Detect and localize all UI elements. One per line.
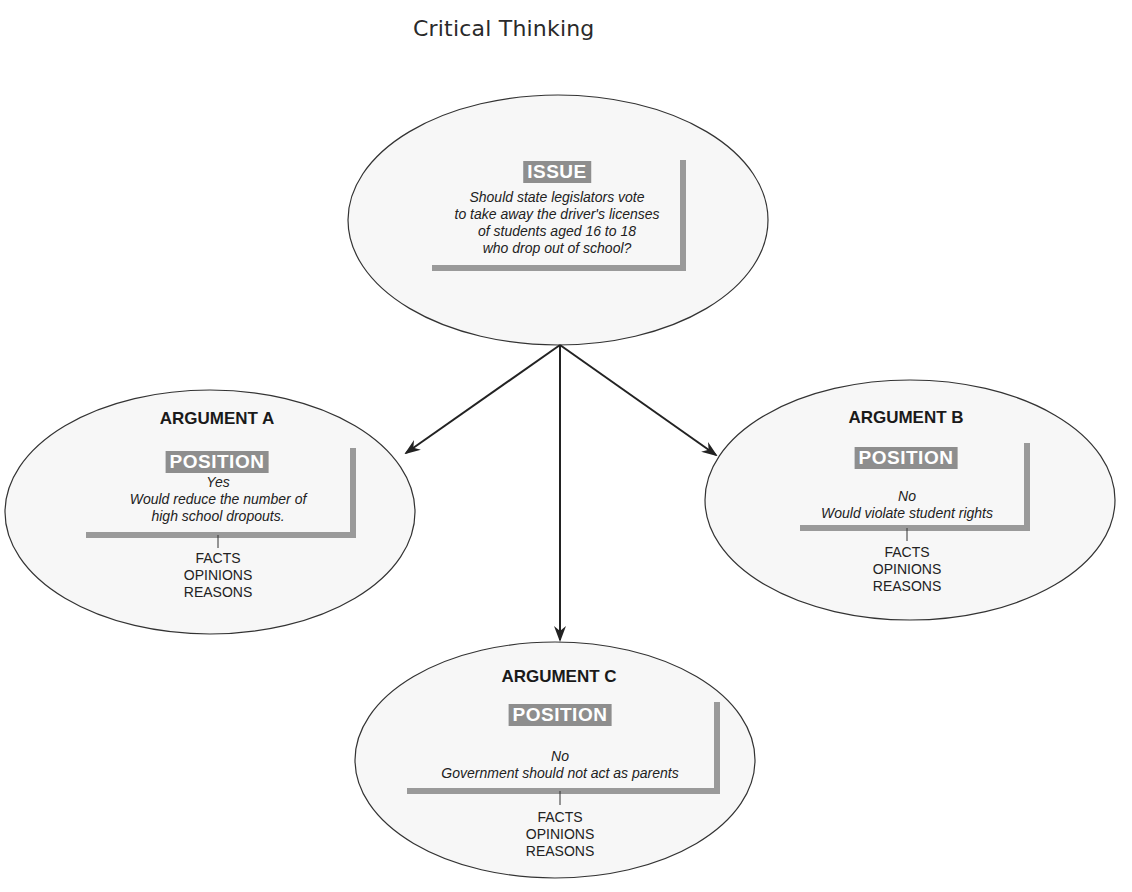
argument-c-heading: ARGUMENT C [501,667,616,687]
argument-b-position-label: POSITION [855,447,958,469]
support-facts: FACTS [184,550,252,567]
argument-a-position-text: Yes Would reduce the number of high scho… [130,474,307,525]
issue-line: who drop out of school? [455,240,660,257]
argument-c-position-text: No Government should not act as parents [441,748,678,782]
support-facts: FACTS [873,544,941,561]
support-reasons: REASONS [873,578,941,595]
issue-line: of students aged 16 to 18 [455,223,660,240]
argument-a-line: Would reduce the number of [130,491,307,508]
argument-c-line: Government should not act as parents [441,765,678,782]
argument-a-support: FACTS OPINIONS REASONS [184,550,252,601]
argument-b-stance: No [821,488,993,505]
argument-c-position-label: POSITION [509,704,612,726]
issue-label: ISSUE [523,161,591,183]
arrow-issue-to-b [560,345,716,455]
support-facts: FACTS [526,809,594,826]
argument-a-line: high school dropouts. [130,508,307,525]
argument-a-position-label: POSITION [166,451,269,473]
support-reasons: REASONS [184,584,252,601]
argument-b-heading: ARGUMENT B [848,408,963,428]
support-opinions: OPINIONS [526,826,594,843]
argument-b-support: FACTS OPINIONS REASONS [873,544,941,595]
arrow-issue-to-a [406,345,560,453]
issue-line: to take away the driver's licenses [455,206,660,223]
argument-c-stance: No [441,748,678,765]
argument-a-heading: ARGUMENT A [160,409,275,429]
argument-c-support: FACTS OPINIONS REASONS [526,809,594,860]
support-opinions: OPINIONS [873,561,941,578]
support-reasons: REASONS [526,843,594,860]
argument-b-position-text: No Would violate student rights [821,488,993,522]
support-opinions: OPINIONS [184,567,252,584]
issue-line: Should state legislators vote [455,189,660,206]
issue-question: Should state legislators vote to take aw… [455,189,660,257]
argument-a-stance: Yes [130,474,307,491]
argument-b-line: Would violate student rights [821,505,993,522]
